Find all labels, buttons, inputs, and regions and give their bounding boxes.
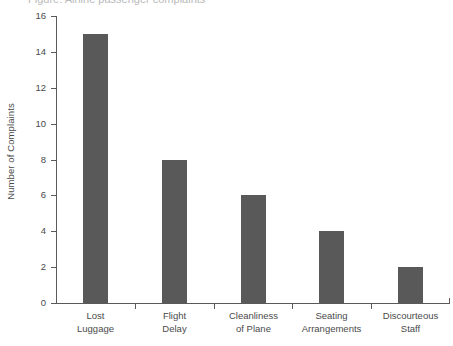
- y-tick: [51, 16, 57, 17]
- x-tick-label-line: of Plane: [214, 323, 293, 336]
- bar: [83, 34, 108, 303]
- bar: [319, 231, 344, 303]
- x-tick-label-line: Seating: [292, 310, 371, 323]
- y-tick: [51, 124, 57, 125]
- y-tick-label: 14: [6, 47, 46, 57]
- y-tick: [51, 88, 57, 89]
- x-tick-label-line: Cleanliness: [214, 310, 293, 323]
- x-tick-label-line: Discourteous: [371, 310, 450, 323]
- x-tick-label: LostLuggage: [56, 310, 135, 335]
- x-tick-label-line: Staff: [371, 323, 450, 336]
- x-tick-label-line: Delay: [135, 323, 214, 336]
- x-tick-label-line: Flight: [135, 310, 214, 323]
- plot-area: 0246810121416 LostLuggageFlightDelayClea…: [0, 0, 453, 346]
- bar: [398, 267, 423, 303]
- x-tick-label-line: Arrangements: [292, 323, 371, 336]
- y-tick-label: 2: [6, 262, 46, 272]
- x-tick-label: DiscourteousStaff: [371, 310, 450, 335]
- x-axis-line: [56, 303, 450, 304]
- y-tick: [51, 195, 57, 196]
- x-tick: [371, 303, 372, 309]
- x-tick-label: FlightDelay: [135, 310, 214, 335]
- x-tick-label: SeatingArrangements: [292, 310, 371, 335]
- x-tick-label-line: Luggage: [56, 323, 135, 336]
- y-tick: [51, 52, 57, 53]
- y-tick-label: 0: [6, 298, 46, 308]
- y-tick-label: 8: [6, 155, 46, 165]
- x-tick: [214, 303, 215, 309]
- y-tick-label: 10: [6, 119, 46, 129]
- y-tick-label: 4: [6, 226, 46, 236]
- y-tick: [51, 160, 57, 161]
- x-tick: [292, 303, 293, 309]
- x-tick-label-line: Lost: [56, 310, 135, 323]
- x-axis-end-cap: [449, 298, 450, 304]
- bar-chart: Figure: Airline passenger complaints Num…: [0, 0, 453, 346]
- y-tick-label: 12: [6, 83, 46, 93]
- y-tick: [51, 267, 57, 268]
- bar: [162, 160, 187, 304]
- x-tick: [135, 303, 136, 309]
- y-tick-label: 6: [6, 190, 46, 200]
- x-tick-label: Cleanlinessof Plane: [214, 310, 293, 335]
- y-tick: [51, 231, 57, 232]
- y-tick-label: 16: [6, 11, 46, 21]
- bar: [241, 195, 266, 303]
- y-tick: [51, 303, 57, 304]
